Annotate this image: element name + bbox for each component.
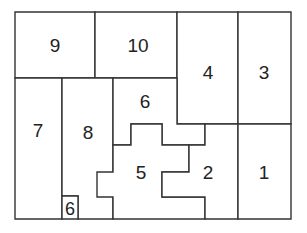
piece-8-label: 8 (83, 122, 94, 143)
piece-9-label: 9 (50, 35, 61, 56)
piece-4[interactable]: 4 (177, 12, 238, 124)
piece-7-shape[interactable] (15, 78, 62, 219)
piece-3-label: 3 (259, 62, 270, 83)
piece-7-label: 7 (33, 120, 44, 141)
piece-6-small-label: 6 (65, 199, 75, 219)
piece-5-label: 5 (136, 162, 147, 183)
piece-1[interactable]: 1 (238, 124, 291, 219)
piece-6-large-label: 6 (140, 91, 151, 112)
puzzle-diagram: 9 10 4 3 7 8 6 5 2 1 6 (0, 0, 307, 233)
piece-6-small[interactable]: 6 (62, 196, 78, 219)
piece-4-label: 4 (203, 62, 214, 83)
piece-10-label: 10 (127, 35, 148, 56)
piece-3[interactable]: 3 (238, 12, 291, 124)
piece-7[interactable]: 7 (15, 78, 62, 219)
piece-2-label: 2 (203, 162, 214, 183)
piece-10[interactable]: 10 (95, 12, 177, 78)
piece-9[interactable]: 9 (15, 12, 95, 78)
piece-1-label: 1 (259, 162, 270, 183)
